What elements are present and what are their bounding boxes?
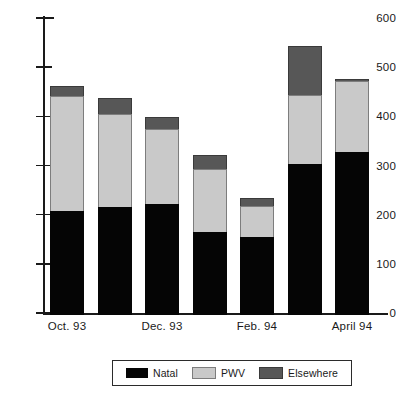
bar-column[interactable] — [288, 46, 322, 315]
bar-segment-elsewhere — [193, 155, 227, 169]
x-axis-tick-label: April 94 — [332, 320, 373, 332]
y-axis-tick — [36, 312, 44, 314]
legend-entry[interactable]: Elsewhere — [259, 367, 338, 379]
legend-label: Natal — [153, 367, 178, 379]
bar-segment-elsewhere — [98, 98, 132, 114]
x-axis-tick-label: Dec. 93 — [141, 320, 182, 332]
y-axis-tick — [36, 165, 44, 167]
bar-segment-natal — [145, 204, 179, 315]
bar-segment-pwv — [335, 81, 369, 152]
bar-column[interactable] — [240, 198, 274, 315]
bar-segment-pwv — [50, 96, 84, 211]
y-axis-tick — [36, 17, 44, 19]
bar-segment-natal — [98, 207, 132, 315]
bar-segment-natal — [335, 152, 369, 315]
stacked-bar-chart: 0100200300400500600 Oct. 93Dec. 93Feb. 9… — [0, 0, 396, 398]
bar-column[interactable] — [145, 117, 179, 315]
swatch-elsewhere-icon — [259, 367, 283, 379]
bar-segment-elsewhere — [288, 46, 322, 96]
bar-segment-natal — [193, 232, 227, 315]
swatch-pwv-icon — [192, 367, 216, 379]
bar-segment-elsewhere — [50, 86, 84, 96]
y-axis-tick — [36, 263, 44, 265]
bar-segment-pwv — [145, 129, 179, 204]
swatch-natal-icon — [126, 368, 148, 378]
bar-segment-natal — [50, 211, 84, 315]
x-axis-tick-label: Feb. 94 — [237, 320, 277, 332]
bar-column[interactable] — [193, 155, 227, 315]
bar-segment-natal — [240, 237, 274, 315]
x-axis-tick-label: Oct. 93 — [48, 320, 86, 332]
bar-segment-pwv — [98, 114, 132, 207]
bar-column[interactable] — [98, 98, 132, 315]
y-axis-tick — [36, 66, 44, 68]
legend-label: PWV — [221, 367, 245, 379]
bar-column[interactable] — [335, 79, 369, 315]
bar-segment-elsewhere — [145, 117, 179, 129]
y-axis-tick — [36, 214, 44, 216]
y-axis-tick — [36, 116, 44, 118]
legend-label: Elsewhere — [288, 367, 338, 379]
bar-segment-pwv — [240, 206, 274, 237]
legend-entry[interactable]: PWV — [192, 367, 245, 379]
chart-legend: NatalPWVElsewhere — [112, 360, 352, 386]
bar-segment-pwv — [288, 95, 322, 164]
bar-segment-natal — [288, 164, 322, 315]
bar-column[interactable] — [50, 86, 84, 315]
bars-layer — [44, 16, 388, 315]
bar-segment-pwv — [193, 169, 227, 232]
bar-segment-elsewhere — [240, 198, 274, 206]
legend-entry[interactable]: Natal — [126, 367, 178, 379]
